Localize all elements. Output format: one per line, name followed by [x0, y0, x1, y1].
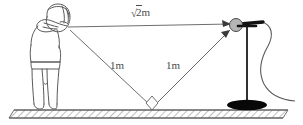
hips	[31, 62, 60, 69]
person-shouting	[30, 4, 70, 109]
microphone-assembly	[227, 19, 295, 111]
microphone-cable	[261, 22, 295, 101]
hypotenuse-unit: m	[142, 6, 151, 18]
diagram-canvas	[0, 0, 303, 125]
physics-diagram-figure: √2m 1m 1m	[0, 0, 303, 125]
right-leg-inner	[47, 69, 49, 104]
finger-line-1	[44, 23, 58, 27]
right-leg-outer	[57, 69, 59, 104]
left-leg-inner	[42, 69, 44, 104]
right-arm	[57, 30, 59, 48]
right-angle-marker	[146, 96, 158, 110]
left-arm	[31, 26, 38, 45]
label-incident-distance: 1m	[110, 60, 124, 71]
reflected-path-arrowhead	[221, 30, 230, 38]
torso-shirt	[30, 45, 60, 62]
label-hypotenuse-distance: √2m	[131, 7, 150, 19]
radicand: 2	[136, 5, 142, 18]
microphone-boom	[240, 22, 263, 24]
ground-hatch-body	[9, 110, 288, 118]
stand-base	[227, 100, 267, 110]
radical-expression: √2	[131, 7, 142, 19]
left-foot	[34, 104, 44, 109]
label-reflected-distance: 1m	[166, 60, 180, 71]
sound-ray-paths	[68, 20, 231, 110]
hand-upper	[39, 20, 67, 26]
left-leg-outer	[32, 69, 34, 104]
right-foot	[49, 104, 57, 109]
finger-line-2	[43, 27, 57, 29]
hair-strand-1	[62, 6, 64, 23]
crotch-line	[44, 83, 47, 85]
ground-strip	[9, 110, 288, 118]
direct-path-line	[68, 24, 231, 27]
